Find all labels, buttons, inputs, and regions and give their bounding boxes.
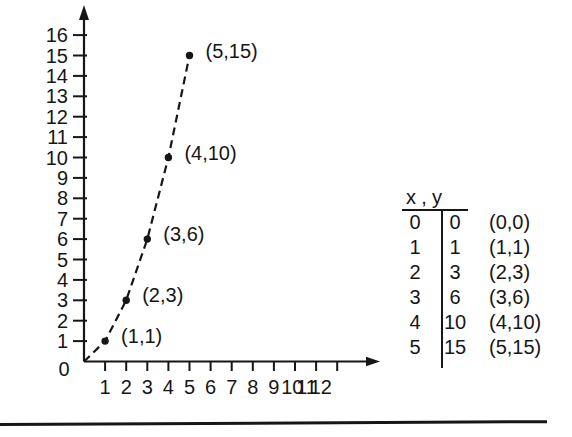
data-point-dot xyxy=(101,337,108,344)
cell-y: 0 xyxy=(443,210,467,235)
y-tick-label: 14 xyxy=(46,65,68,87)
trend-dashed-line xyxy=(84,56,190,362)
figure-root: 123456789101112131415161234567891011120(… xyxy=(0,0,572,437)
cell-y: 10 xyxy=(443,310,467,335)
y-tick-label: 8 xyxy=(57,187,68,209)
y-tick-label: 15 xyxy=(46,45,68,67)
x-tick-label: 7 xyxy=(226,376,237,398)
table-row: 5 15 (5,15) xyxy=(398,335,558,360)
y-axis-arrow-icon xyxy=(79,5,89,20)
table-header-comma: , xyxy=(420,186,428,208)
x-tick-label: 6 xyxy=(205,376,216,398)
data-point-dot xyxy=(144,235,151,242)
x-tick-label: 4 xyxy=(163,376,174,398)
x-tick-label: 1 xyxy=(100,376,111,398)
x-tick-label: 9 xyxy=(268,376,279,398)
cell-y: 15 xyxy=(443,335,467,360)
data-point-label: (5,15) xyxy=(206,40,258,62)
y-tick-label: 13 xyxy=(46,85,68,107)
data-point-label: (4,10) xyxy=(184,142,236,164)
data-point-label: (1,1) xyxy=(121,325,162,347)
cell-pair: (5,15) xyxy=(489,335,541,360)
cell-x: 0 xyxy=(404,210,426,235)
cell-y: 3 xyxy=(443,260,467,285)
cell-x: 5 xyxy=(404,335,426,360)
y-tick-label: 7 xyxy=(57,208,68,230)
table-header-x: x xyxy=(402,186,420,208)
data-point-dot xyxy=(165,154,172,161)
table-row: 0 0 (0,0) xyxy=(398,210,558,235)
y-tick-label: 5 xyxy=(57,249,68,271)
data-point-label: (3,6) xyxy=(163,223,204,245)
table-rows: 0 0 (0,0) 1 1 (1,1) 2 3 (2,3) 3 6 (3,6) … xyxy=(398,210,558,360)
data-point-dot xyxy=(186,52,193,59)
x-tick-label: 8 xyxy=(247,376,258,398)
xy-table: x , y 0 0 (0,0) 1 1 (1,1) 2 3 (2,3) 3 xyxy=(398,186,558,381)
y-tick-label: 10 xyxy=(46,147,68,169)
y-tick-label: 1 xyxy=(57,330,68,352)
cell-pair: (1,1) xyxy=(489,235,530,260)
table-row: 1 1 (1,1) xyxy=(398,235,558,260)
y-tick-label: 3 xyxy=(57,289,68,311)
y-tick-label: 12 xyxy=(46,106,68,128)
table-header-y: y xyxy=(428,186,446,208)
table-row: 3 6 (3,6) xyxy=(398,285,558,310)
y-tick-label: 2 xyxy=(57,310,68,332)
cell-x: 3 xyxy=(404,285,426,310)
table-row: 4 10 (4,10) xyxy=(398,310,558,335)
x-tick-label: 12 xyxy=(310,376,332,398)
y-tick-label: 4 xyxy=(57,269,68,291)
cell-y: 6 xyxy=(443,285,467,310)
table-row: 2 3 (2,3) xyxy=(398,260,558,285)
cell-y: 1 xyxy=(443,235,467,260)
cell-pair: (2,3) xyxy=(489,260,530,285)
y-tick-label: 6 xyxy=(57,228,68,250)
cell-x: 1 xyxy=(404,235,426,260)
data-point-label: (2,3) xyxy=(142,284,183,306)
x-tick-label: 3 xyxy=(142,376,153,398)
cell-x: 4 xyxy=(404,310,426,335)
y-tick-label: 11 xyxy=(47,126,68,148)
x-tick-label: 5 xyxy=(184,376,195,398)
y-tick-label: 16 xyxy=(46,24,68,46)
cell-pair: (0,0) xyxy=(489,210,530,235)
cell-x: 2 xyxy=(404,260,426,285)
x-tick-label: 2 xyxy=(121,376,132,398)
x-axis-arrow-icon xyxy=(366,357,380,366)
origin-label: 0 xyxy=(58,358,69,380)
data-point-dot xyxy=(123,297,130,304)
cell-pair: (4,10) xyxy=(489,310,541,335)
y-tick-label: 9 xyxy=(57,167,68,189)
cell-pair: (3,6) xyxy=(489,285,530,310)
